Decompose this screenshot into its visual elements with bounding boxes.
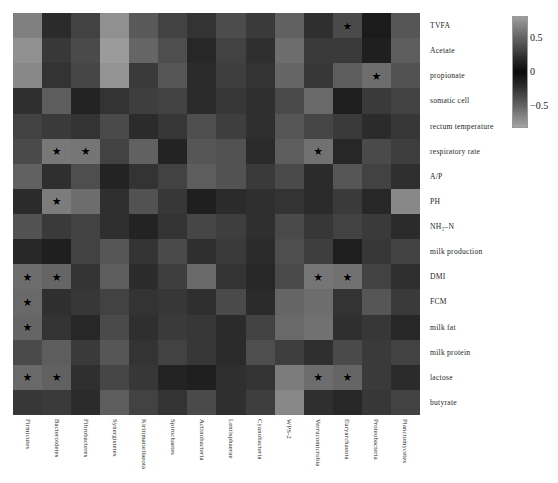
heatmap-cell bbox=[246, 340, 275, 365]
heatmap-cell bbox=[158, 315, 187, 340]
heatmap-cell: ★ bbox=[333, 13, 362, 38]
heatmap-cell bbox=[13, 114, 42, 139]
heatmap-cell bbox=[71, 315, 100, 340]
heatmap-cell bbox=[187, 38, 216, 63]
heatmap-cell bbox=[13, 390, 42, 415]
column-label: Fibrobacteres bbox=[82, 419, 89, 458]
column-label-axis: FirmicutesBacteroidetesFibrobacteresSyne… bbox=[13, 417, 420, 481]
heatmap-cell bbox=[71, 88, 100, 113]
heatmap-cell bbox=[129, 139, 158, 164]
heatmap-cell: ★ bbox=[71, 139, 100, 164]
heatmap-cell bbox=[13, 164, 42, 189]
heatmap-cell bbox=[391, 63, 420, 88]
heatmap-cell bbox=[304, 390, 333, 415]
heatmap-cell: ★ bbox=[13, 264, 42, 289]
heatmap-cell bbox=[362, 390, 391, 415]
heatmap-cell: ★ bbox=[42, 365, 71, 390]
heatmap-cell bbox=[187, 289, 216, 314]
heatmap-cell bbox=[129, 114, 158, 139]
heatmap-cell bbox=[129, 13, 158, 38]
heatmap-cell bbox=[362, 164, 391, 189]
heatmap-cell bbox=[187, 13, 216, 38]
heatmap-cell bbox=[187, 214, 216, 239]
heatmap-cell bbox=[362, 88, 391, 113]
heatmap-cell bbox=[216, 264, 245, 289]
heatmap-cell bbox=[187, 315, 216, 340]
heatmap-cell bbox=[304, 13, 333, 38]
heatmap-cell bbox=[246, 289, 275, 314]
heatmap-cell bbox=[71, 114, 100, 139]
heatmap-cell bbox=[216, 38, 245, 63]
heatmap-cell bbox=[246, 214, 275, 239]
heatmap-cell bbox=[216, 13, 245, 38]
heatmap-cell: ★ bbox=[362, 63, 391, 88]
heatmap-cell bbox=[275, 13, 304, 38]
heatmap-cell bbox=[71, 189, 100, 214]
heatmap-cell bbox=[362, 214, 391, 239]
heatmap-cell bbox=[42, 340, 71, 365]
colorbar-tick-labels: 0.50−0.5 bbox=[530, 16, 558, 126]
heatmap-cell bbox=[246, 315, 275, 340]
heatmap-cell bbox=[275, 264, 304, 289]
heatmap-cell bbox=[333, 63, 362, 88]
heatmap-cell bbox=[158, 63, 187, 88]
heatmap-cell bbox=[42, 315, 71, 340]
heatmap-cell bbox=[333, 239, 362, 264]
heatmap-cell bbox=[216, 239, 245, 264]
heatmap-cell bbox=[275, 164, 304, 189]
heatmap-cell bbox=[158, 289, 187, 314]
heatmap-cell bbox=[304, 164, 333, 189]
heatmap-cell bbox=[391, 239, 420, 264]
heatmap-cell bbox=[158, 390, 187, 415]
heatmap-cell bbox=[100, 13, 129, 38]
heatmap-cell bbox=[216, 365, 245, 390]
heatmap-cell bbox=[391, 13, 420, 38]
column-label-slot: Fibrobacteres bbox=[71, 417, 100, 481]
row-label: DMI bbox=[430, 264, 522, 289]
heatmap-cell bbox=[187, 264, 216, 289]
heatmap-cell bbox=[246, 239, 275, 264]
heatmap-cell bbox=[187, 88, 216, 113]
column-label: Planctomycetes bbox=[402, 419, 409, 463]
heatmap-cell bbox=[246, 63, 275, 88]
row-label: milk fat bbox=[430, 315, 522, 340]
heatmap-cell: ★ bbox=[304, 139, 333, 164]
heatmap-cell bbox=[362, 365, 391, 390]
heatmap-cell bbox=[246, 264, 275, 289]
column-label-slot: Spirochaetes bbox=[158, 417, 187, 481]
row-label: FCM bbox=[430, 289, 522, 314]
heatmap-cell bbox=[275, 88, 304, 113]
heatmap-cell bbox=[304, 114, 333, 139]
heatmap-cell bbox=[391, 390, 420, 415]
heatmap-cell bbox=[246, 13, 275, 38]
heatmap-cell bbox=[13, 239, 42, 264]
heatmap-cell bbox=[304, 289, 333, 314]
column-label-slot: Verrucomicrobia bbox=[304, 417, 333, 481]
heatmap-cell bbox=[391, 315, 420, 340]
heatmap-cell bbox=[275, 289, 304, 314]
heatmap-cell bbox=[100, 214, 129, 239]
heatmap-cell bbox=[362, 264, 391, 289]
heatmap-cell bbox=[100, 63, 129, 88]
heatmap-figure: ★★★★★★★★★★★★★★★★ TVFAAcetatepropionateso… bbox=[0, 0, 558, 483]
row-label-axis: TVFAAcetatepropionatesomatic cellrectum … bbox=[430, 13, 522, 415]
column-label-slot: Proteobacteria bbox=[362, 417, 391, 481]
heatmap-cell bbox=[304, 189, 333, 214]
heatmap-cell bbox=[42, 239, 71, 264]
heatmap-cell bbox=[304, 239, 333, 264]
heatmap-cell: ★ bbox=[13, 365, 42, 390]
heatmap-cell bbox=[275, 63, 304, 88]
heatmap-cell bbox=[391, 189, 420, 214]
row-label: TVFA bbox=[430, 13, 522, 38]
column-label: WPS-2 bbox=[286, 419, 293, 439]
heatmap-cell bbox=[333, 114, 362, 139]
heatmap-cell bbox=[100, 289, 129, 314]
heatmap-cell bbox=[71, 340, 100, 365]
heatmap-cell bbox=[158, 239, 187, 264]
heatmap-cell bbox=[333, 139, 362, 164]
row-label: propionate bbox=[430, 63, 522, 88]
heatmap-cell bbox=[216, 114, 245, 139]
heatmap-cell bbox=[42, 214, 71, 239]
heatmap-cell bbox=[129, 289, 158, 314]
heatmap-cell bbox=[275, 390, 304, 415]
